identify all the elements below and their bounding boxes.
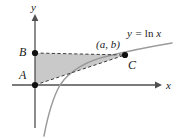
- point-marker-b: [32, 50, 38, 56]
- x-axis-label: x: [166, 80, 171, 91]
- x-axis-arrowhead: [155, 82, 162, 89]
- y-axis-label: y: [31, 2, 36, 13]
- curve-eq-y: y: [127, 27, 132, 39]
- figure-container: y x B A C (a, b) y = ln x: [0, 0, 179, 139]
- curve-equation-label: y = ln x: [127, 28, 161, 39]
- curve-eq-equals: =: [135, 27, 142, 39]
- curve-eq-x: x: [156, 27, 161, 39]
- point-label-a: A: [19, 69, 26, 81]
- point-marker-a: [32, 82, 38, 88]
- coordinate-pair-label: (a, b): [96, 39, 120, 50]
- graph-canvas: [0, 0, 179, 139]
- point-label-b: B: [19, 46, 26, 58]
- curve-eq-ln: ln: [145, 27, 154, 39]
- point-label-c: C: [128, 59, 136, 71]
- y-axis-arrowhead: [32, 14, 39, 21]
